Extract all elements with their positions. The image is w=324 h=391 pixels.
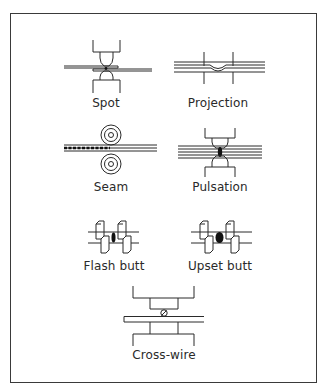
label-cross-wire: Cross-wire	[104, 348, 224, 362]
seam-weld-diagram	[64, 125, 157, 174]
label-flash-butt: Flash butt	[54, 259, 174, 273]
spot-weld-diagram	[64, 40, 152, 93]
flash-butt-weld-diagram	[88, 221, 139, 253]
label-pulsation: Pulsation	[160, 180, 280, 194]
label-seam: Seam	[51, 180, 171, 194]
cross-wire-weld-diagram	[124, 286, 204, 346]
label-projection: Projection	[158, 96, 278, 110]
projection-weld-diagram	[174, 52, 265, 84]
pulsation-weld-diagram	[178, 128, 262, 177]
label-upset-butt: Upset butt	[160, 259, 280, 273]
label-spot: Spot	[46, 96, 166, 110]
upset-butt-weld-diagram	[191, 221, 252, 253]
welding-methods-diagram	[0, 0, 324, 391]
